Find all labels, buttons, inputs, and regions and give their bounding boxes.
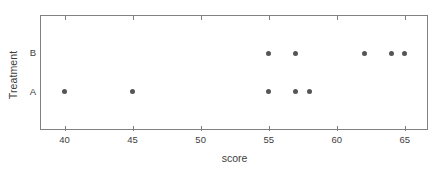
x-tick-label: 55 (249, 134, 289, 145)
plot-panel (40, 15, 428, 130)
x-tick-label: 65 (385, 134, 425, 145)
x-tick-label: 40 (45, 134, 85, 145)
x-axis-tick (337, 15, 338, 20)
x-axis-tick (133, 15, 134, 20)
y-axis-title: Treatment (7, 10, 21, 140)
x-axis-tick (405, 126, 406, 131)
x-axis-tick (65, 15, 66, 20)
x-tick-label: 60 (317, 134, 357, 145)
x-tick-label: 45 (113, 134, 153, 145)
x-axis-title: score (40, 152, 429, 164)
data-point (389, 51, 394, 56)
x-axis-tick (405, 15, 406, 20)
x-axis-tick (133, 126, 134, 131)
x-axis-tick (65, 126, 66, 131)
data-point (362, 51, 367, 56)
x-axis-tick (269, 126, 270, 131)
scatter-plot-figure: Treatment B A 404550556065 score (0, 0, 440, 174)
x-axis-tick (201, 15, 202, 20)
y-tick-label-B: B (20, 47, 36, 58)
x-axis-tick (337, 126, 338, 131)
x-axis-tick (201, 126, 202, 131)
x-tick-label: 50 (181, 134, 221, 145)
x-axis-tick (269, 15, 270, 20)
y-tick-label-A: A (20, 86, 36, 97)
